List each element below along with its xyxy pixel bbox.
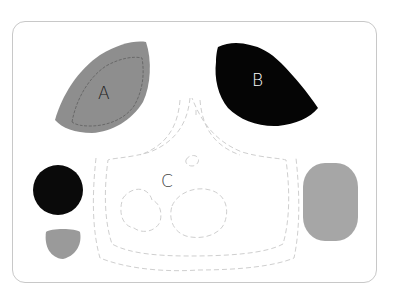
- small-gray-shape: [46, 229, 81, 259]
- gray-rounded-rect: [303, 163, 358, 241]
- shape-b: [216, 43, 319, 126]
- label-c: C: [161, 173, 173, 190]
- label-b: B: [252, 72, 263, 89]
- diagram-canvas: [0, 0, 399, 295]
- black-circle: [33, 165, 83, 215]
- label-a: A: [98, 85, 110, 102]
